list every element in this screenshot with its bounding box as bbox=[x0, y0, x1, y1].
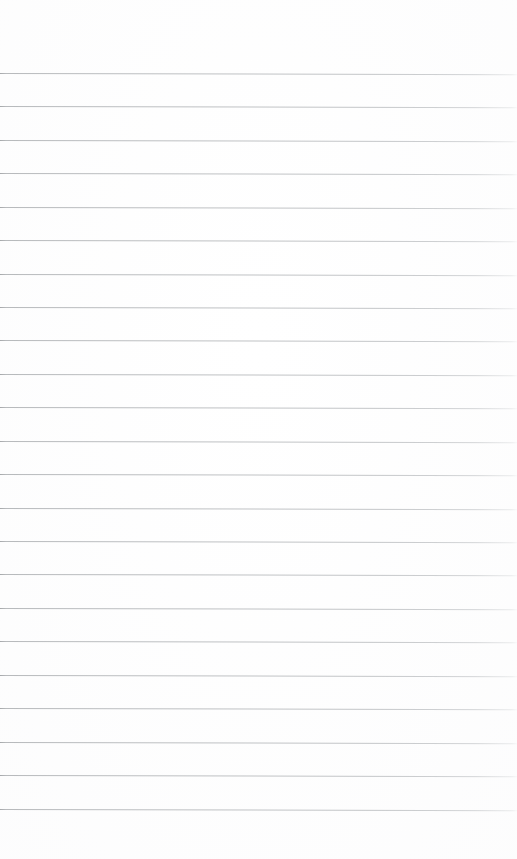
ruled-line bbox=[0, 775, 517, 777]
ruled-line bbox=[0, 675, 517, 677]
ruled-line bbox=[0, 508, 517, 510]
ruled-line bbox=[0, 474, 517, 476]
ruled-line bbox=[0, 140, 517, 142]
paper-texture-overlay bbox=[0, 0, 517, 859]
ruled-line bbox=[0, 708, 517, 710]
ruled-line bbox=[0, 274, 517, 276]
ruled-line bbox=[0, 809, 517, 811]
ruled-line bbox=[0, 173, 517, 175]
ruled-line bbox=[0, 407, 517, 409]
ruled-line bbox=[0, 73, 517, 75]
ruled-line bbox=[0, 207, 517, 209]
ruled-line bbox=[0, 340, 517, 342]
ruled-line bbox=[0, 608, 517, 610]
ruled-line bbox=[0, 641, 517, 643]
ruled-line bbox=[0, 307, 517, 309]
ruled-line bbox=[0, 106, 517, 108]
ruled-line bbox=[0, 374, 517, 376]
ruled-line bbox=[0, 742, 517, 744]
lined-paper-page bbox=[0, 0, 517, 859]
ruled-line bbox=[0, 240, 517, 242]
ruled-line bbox=[0, 441, 517, 443]
ruled-line bbox=[0, 574, 517, 576]
ruled-line bbox=[0, 541, 517, 543]
